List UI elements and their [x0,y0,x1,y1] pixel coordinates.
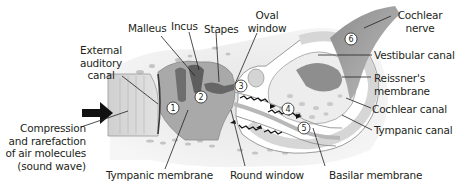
label-stapes: Stapes [204,23,239,36]
label-cochlear-canal: Cochlear canal [372,103,447,116]
svg-text:6: 6 [348,35,353,44]
label-vestibular-canal: Vestibular canal [374,49,455,62]
step-6-marker: 6 [345,33,357,45]
step-3-marker: 3 [235,80,247,92]
svg-text:4: 4 [285,105,290,114]
oval-window-shape [248,69,264,87]
label-external-auditory-canal: External auditory canal [76,44,126,82]
svg-text:2: 2 [198,93,203,102]
step-2-marker: 2 [195,91,207,103]
label-tympanic-membrane: Tympanic membrane [106,169,213,182]
svg-text:1: 1 [170,104,175,113]
label-round-window: Round window [230,169,304,182]
label-compression-rarefaction: Compression and rarefaction of air molec… [2,122,86,172]
svg-text:5: 5 [301,124,306,133]
label-tympanic-canal: Tympanic canal [374,124,452,137]
ear-diagram: 1 2 3 4 5 6 [0,0,461,187]
step-5-marker: 5 [298,122,310,134]
step-4-marker: 4 [282,103,294,115]
label-basilar-membrane: Basilar membrane [329,169,422,182]
label-malleus: Malleus [128,22,167,35]
label-cochlear-nerve: Cochlear nerve [390,9,450,34]
svg-text:3: 3 [238,82,243,91]
label-reissners-membrane: Reissner's membrane [374,72,430,97]
external-auditory-canal [108,74,158,136]
label-oval-window: Oval window [245,9,289,34]
label-incus: Incus [171,20,198,33]
step-1-marker: 1 [167,102,179,114]
